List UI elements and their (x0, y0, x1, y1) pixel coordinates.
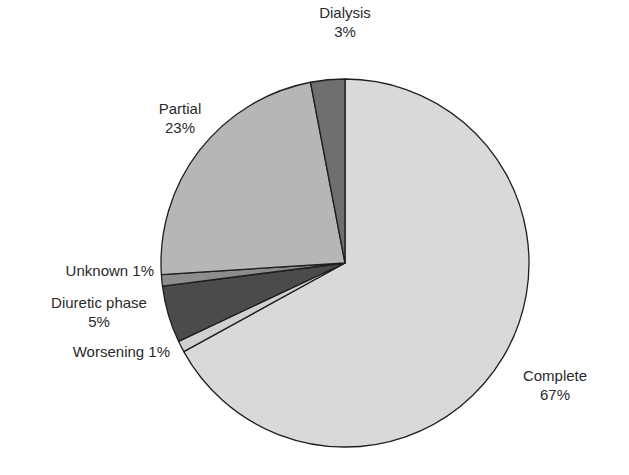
label-diuretic: Diuretic phase 5% (38, 293, 160, 331)
label-diuretic-name: Diuretic phase (38, 293, 160, 312)
label-complete: Complete 67% (505, 366, 605, 404)
label-worsening-text: Worsening 1% (73, 343, 170, 360)
label-diuretic-pct: 5% (38, 312, 160, 331)
label-dialysis: Dialysis 3% (297, 3, 393, 41)
label-unknown-text: Unknown 1% (66, 262, 154, 279)
label-complete-name: Complete (505, 366, 605, 385)
label-dialysis-name: Dialysis (297, 3, 393, 22)
label-worsening: Worsening 1% (30, 342, 170, 361)
label-unknown: Unknown 1% (20, 261, 154, 280)
label-complete-pct: 67% (505, 385, 605, 404)
label-dialysis-pct: 3% (297, 22, 393, 41)
label-partial-name: Partial (140, 99, 220, 118)
label-partial-pct: 23% (140, 118, 220, 137)
label-partial: Partial 23% (140, 99, 220, 137)
